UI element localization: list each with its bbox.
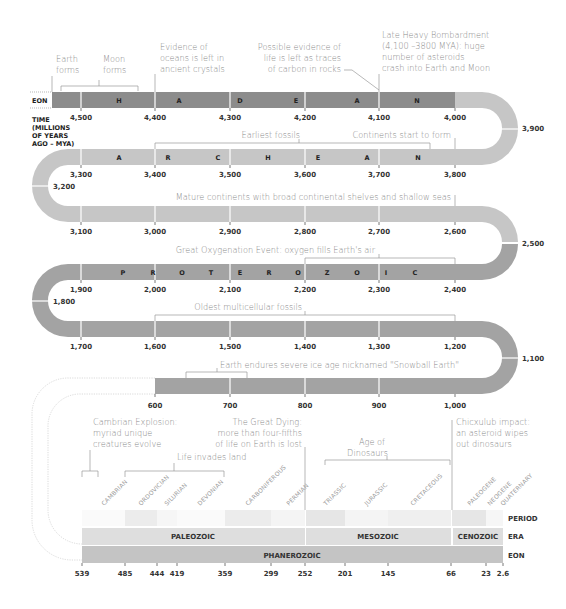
svg-text:2,200: 2,200 [294, 286, 316, 294]
annotation-cambrian-explosion: Cambrian Explosion: myriad unique creatu… [82, 417, 177, 477]
svg-text:CRETACEOUS: CRETACEOUS [409, 472, 444, 507]
svg-text:myriad unique: myriad unique [93, 428, 152, 438]
svg-text:CARBONIFEROUS: CARBONIFEROUS [244, 463, 287, 506]
svg-text:more than four-fifths: more than four-fifths [218, 428, 302, 438]
svg-text:A: A [176, 97, 181, 105]
svg-text:1,500: 1,500 [219, 343, 241, 351]
svg-text:O: O [354, 269, 360, 277]
svg-text:N: N [414, 97, 419, 105]
svg-text:3,100: 3,100 [70, 228, 92, 236]
ticks-row1: 4,500 4,400 4,300 4,200 4,100 4,000 [70, 114, 466, 122]
svg-text:Oldest multicellular fossils: Oldest multicellular fossils [194, 302, 302, 312]
svg-text:1,900: 1,900 [70, 286, 92, 294]
svg-text:forms: forms [56, 65, 79, 75]
svg-text:E: E [316, 154, 320, 162]
svg-text:4,200: 4,200 [294, 114, 316, 122]
svg-text:2,800: 2,800 [294, 228, 316, 236]
svg-text:R: R [266, 269, 271, 277]
time-label-3: OF YEARS [32, 132, 68, 140]
svg-text:Evidence of: Evidence of [160, 42, 208, 52]
annotation-continents-form: Continents start to form [353, 130, 455, 149]
svg-text:600: 600 [148, 402, 163, 410]
period-row-label: PERIOD [508, 515, 538, 523]
svg-text:Mature continents with broad c: Mature continents with broad continental… [176, 192, 451, 202]
period-band [82, 510, 503, 526]
era-cenozoic: CENOZOIC [458, 533, 499, 541]
svg-text:2,300: 2,300 [368, 286, 390, 294]
svg-text:800: 800 [298, 402, 313, 410]
tick-turn3: 2,500 [522, 240, 544, 248]
svg-text:4,300: 4,300 [219, 114, 241, 122]
proterozoic-band-row5 [81, 321, 455, 337]
svg-text:Great Oxygenation Event: oxyge: Great Oxygenation Event: oxygen fills Ea… [176, 245, 376, 255]
svg-text:O: O [295, 269, 301, 277]
svg-text:The Great Dying:: The Great Dying: [232, 417, 302, 427]
svg-text:Cambrian Explosion:: Cambrian Explosion: [93, 417, 177, 427]
svg-text:(4,100 –3800 MYA): huge: (4,100 –3800 MYA): huge [382, 41, 485, 51]
eon-label-top: EON [32, 97, 47, 105]
svg-text:A: A [364, 154, 369, 162]
svg-text:3,700: 3,700 [368, 171, 390, 179]
svg-text:2.6: 2.6 [497, 570, 510, 578]
geologic-timeline: EON TIME (MILLIONS OF YEARS AGO – MYA) H… [0, 0, 566, 609]
svg-text:Earliest fossils: Earliest fossils [242, 130, 300, 140]
svg-text:2,900: 2,900 [219, 228, 241, 236]
svg-text:3,600: 3,600 [294, 171, 316, 179]
svg-text:D: D [237, 97, 243, 105]
ticks-row5: 1,700 1,600 1,500 1,400 1,300 1,200 [70, 343, 466, 351]
svg-text:of carbon in rocks: of carbon in rocks [268, 64, 341, 74]
svg-text:Life invades land: Life invades land [177, 452, 246, 462]
svg-text:Continents start to form: Continents start to form [353, 130, 452, 140]
annotation-oxygenation: Great Oxygenation Event: oxygen fills Ea… [176, 245, 455, 264]
time-label-2: (MILLIONS [32, 124, 71, 132]
annotation-oceans: Evidence of oceans is left in ancient cr… [155, 42, 225, 92]
svg-text:1,600: 1,600 [144, 343, 166, 351]
svg-text:Z: Z [325, 269, 330, 277]
period-labels: CAMBRIAN ORDOVICIAN SILURIAN DEVONIAN CA… [100, 463, 534, 508]
svg-text:1,200: 1,200 [444, 343, 466, 351]
svg-text:R: R [150, 269, 155, 277]
svg-text:creatures evolve: creatures evolve [93, 439, 161, 449]
tick-turn4: 1,800 [53, 298, 75, 306]
svg-text:number of asteroids: number of asteroids [382, 52, 465, 62]
svg-text:O: O [179, 269, 185, 277]
svg-text:3,800: 3,800 [444, 171, 466, 179]
ticks-row6: 600 700 800 900 1,000 [148, 402, 467, 410]
svg-text:3,000: 3,000 [144, 228, 166, 236]
svg-text:700: 700 [223, 402, 238, 410]
era-paleozoic: PALEOZOIC [171, 533, 215, 541]
svg-text:299: 299 [264, 570, 279, 578]
svg-text:crash into Earth and Moon: crash into Earth and Moon [382, 63, 490, 73]
svg-text:1,000: 1,000 [444, 402, 466, 410]
svg-text:PERMIAN: PERMIAN [285, 482, 310, 507]
tick-turn1: 3,900 [522, 125, 544, 133]
svg-text:an asteroid wipes: an asteroid wipes [456, 428, 528, 438]
ticks-row4: 1,900 2,000 2,100 2,200 2,300 2,400 [70, 286, 466, 294]
svg-text:H: H [116, 97, 121, 105]
svg-text:2,600: 2,600 [444, 228, 466, 236]
svg-text:1,700: 1,700 [70, 343, 92, 351]
archean-band-row3 [81, 206, 455, 222]
svg-text:Dinosaurs: Dinosaurs [347, 448, 388, 458]
svg-text:359: 359 [218, 570, 233, 578]
svg-text:1,300: 1,300 [368, 343, 390, 351]
svg-text:4,100: 4,100 [368, 114, 390, 122]
era-band [82, 528, 503, 545]
time-label-4: AGO – MYA) [32, 140, 74, 148]
svg-text:forms: forms [103, 65, 126, 75]
svg-text:900: 900 [372, 402, 387, 410]
svg-text:C: C [216, 154, 221, 162]
svg-text:3,400: 3,400 [144, 171, 166, 179]
svg-text:66: 66 [446, 570, 456, 578]
svg-text:ancient crystals: ancient crystals [160, 64, 225, 74]
svg-text:252: 252 [298, 570, 313, 578]
svg-text:Earth endures severe ice age n: Earth endures severe ice age nicknamed "… [220, 360, 459, 370]
svg-text:P: P [121, 269, 126, 277]
svg-text:T: T [209, 269, 214, 277]
svg-text:2,400: 2,400 [444, 286, 466, 294]
annotation-snowball: Earth endures severe ice age nicknamed "… [186, 360, 459, 378]
svg-text:C: C [413, 269, 418, 277]
turn-right-3-bottom [455, 244, 518, 280]
svg-text:life is left as traces: life is left as traces [264, 53, 341, 63]
svg-text:3,300: 3,300 [70, 171, 92, 179]
